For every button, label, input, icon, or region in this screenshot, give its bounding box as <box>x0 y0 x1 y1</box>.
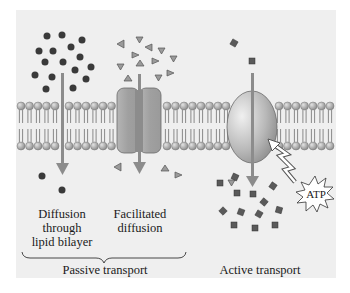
membrane-transport-diagram: Diffusion through lipid bilayer Facilita… <box>0 0 350 293</box>
label-active-transport: Active transport <box>205 263 315 277</box>
label-facilitated-diffusion: Facilitated diffusion <box>105 207 175 235</box>
label-line: through <box>22 221 102 235</box>
diagram-canvas <box>0 0 350 293</box>
label-line: diffusion <box>105 221 175 235</box>
label-line: lipid bilayer <box>22 235 102 249</box>
label-passive-transport: Passive transport <box>50 263 160 277</box>
label-line: Facilitated <box>105 207 175 221</box>
label-atp: ATP <box>301 187 331 201</box>
label-line: Diffusion <box>22 207 102 221</box>
label-diffusion-through-lipid-bilayer: Diffusion through lipid bilayer <box>22 207 102 249</box>
